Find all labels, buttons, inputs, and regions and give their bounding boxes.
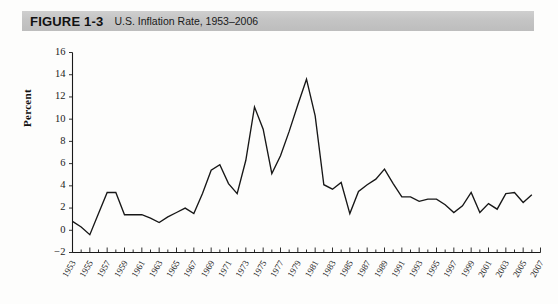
x-tick-label: 1989 [372,258,390,279]
x-tick-label: 1985 [337,258,355,279]
plot-area: Percent 1614121086420−2 1953195519571959… [0,31,558,304]
x-tick-label: 1977 [268,258,286,279]
y-tick-label: 8 [60,135,65,146]
x-tick-label: 1973 [233,258,251,279]
inflation-rate-line [73,79,532,235]
y-tick-label: 10 [55,113,66,124]
x-tick-label: 1969 [199,258,217,279]
figure-title-bar: FIGURE 1-3 U.S. Inflation Rate, 1953–200… [22,11,534,31]
y-tick-label: −2 [54,246,65,257]
x-tick-label: 1963 [147,258,165,279]
y-tick-label: 2 [60,201,65,212]
x-tick-label: 2005 [511,258,529,279]
x-tick-label: 1961 [129,259,147,280]
x-tick-label: 1995 [424,258,442,279]
x-tick-label: 1997 [441,258,459,279]
x-tick-label: 1971 [216,259,234,280]
x-tick-label: 1959 [112,258,130,279]
y-axis: 1614121086420−2 [54,46,72,257]
x-tick-label: 1975 [251,258,269,279]
figure-title-text: U.S. Inflation Rate, 1953–2006 [115,15,259,27]
y-tick-label: 0 [60,224,65,235]
y-tick-label: 4 [60,179,66,190]
x-tick-label: 1991 [389,259,407,280]
figure-container: FIGURE 1-3 U.S. Inflation Rate, 1953–200… [0,0,558,304]
x-tick-label: 2007 [528,258,546,279]
x-tick-label: 1955 [77,258,95,279]
y-tick-label: 14 [55,68,66,79]
figure-number-label: FIGURE 1-3 [30,14,104,29]
y-tick-label: 6 [60,157,65,168]
x-tick-label: 2001 [476,259,494,280]
x-tick-label: 1999 [459,258,477,279]
x-tick-label: 2003 [493,258,511,279]
x-tick-label: 1965 [164,258,182,279]
x-tick-label: 1993 [407,258,425,279]
data-series-group [73,79,532,235]
x-tick-label: 1987 [355,258,373,279]
y-tick-label: 16 [55,46,66,57]
x-tick-label: 1983 [320,258,338,279]
x-axis: 1953195519571959196119631965196719691971… [60,248,546,280]
y-tick-label: 12 [55,90,66,101]
line-chart-svg: 1614121086420−2 195319551957195919611963… [0,31,558,304]
x-tick-label: 1979 [285,258,303,279]
x-tick-label: 1981 [303,259,321,280]
x-tick-label: 1957 [95,258,113,279]
x-tick-label: 1967 [181,258,199,279]
x-tick-label: 1953 [60,258,78,279]
